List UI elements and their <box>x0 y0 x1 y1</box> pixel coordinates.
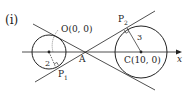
point-label-A: A <box>79 55 86 64</box>
point-label-P1: P1 <box>58 70 68 81</box>
tangent-circles-diagram <box>0 0 185 98</box>
point-label-P1-sub: 1 <box>64 74 68 81</box>
point-label-P2-sub: 2 <box>124 19 128 26</box>
point-label-P2: P2 <box>118 15 128 26</box>
radius-label-small: 2 <box>45 60 50 68</box>
part-label: (i) <box>5 14 18 26</box>
arc-mark <box>52 30 58 52</box>
tangent-line-2 <box>35 11 155 82</box>
point-label-C: C(10, 0) <box>124 56 161 65</box>
point-label-O: O(0, 0) <box>61 25 93 34</box>
radius-label-large: 3 <box>137 34 142 42</box>
axis-label-x: x <box>177 55 182 64</box>
